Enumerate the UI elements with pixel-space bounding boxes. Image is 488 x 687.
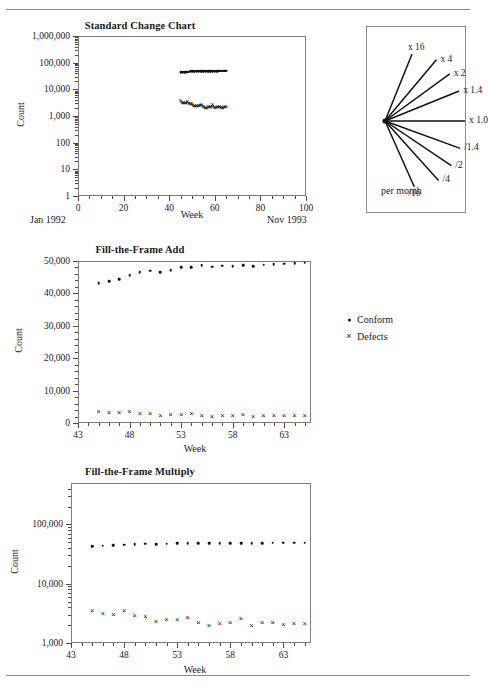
- data-point-defects: ×: [158, 412, 162, 420]
- fan-ray-label: /1.4: [464, 142, 479, 152]
- x-tick-minor: [156, 643, 157, 646]
- y-tick-minor: [75, 404, 78, 405]
- fan-hub: [382, 118, 387, 123]
- y-tick-minor: [68, 607, 71, 608]
- data-point-defects: ×: [207, 622, 211, 630]
- y-tick-minor: [75, 117, 78, 118]
- data-point-conform: [133, 543, 136, 546]
- x-tick-minor: [145, 643, 146, 646]
- x-tick-label: 53: [176, 430, 186, 440]
- y-tick-label: 20,000: [18, 353, 70, 363]
- x-tick-major: [124, 196, 125, 201]
- data-point-conform: [293, 541, 296, 544]
- x-tick-major: [71, 643, 72, 648]
- y-tick-minor: [75, 122, 78, 123]
- data-point-conform: [149, 269, 152, 272]
- x-tick-minor: [203, 196, 204, 199]
- data-point-conform: [123, 543, 126, 546]
- x-axis-label: Week: [135, 664, 255, 675]
- x-tick-minor: [109, 423, 110, 426]
- data-point-defects: ×: [90, 607, 94, 615]
- y-tick-major: [73, 391, 78, 392]
- data-point-conform: [282, 541, 285, 544]
- y-tick-minor: [75, 69, 78, 70]
- series-legend: Conform × Defects: [344, 310, 434, 344]
- y-tick-minor: [75, 371, 78, 372]
- y-tick-label: 10,000: [18, 386, 70, 396]
- y-tick-minor: [75, 130, 78, 131]
- y-tick-minor: [68, 555, 71, 556]
- y-tick-minor: [75, 50, 78, 51]
- data-point-conform: [197, 542, 200, 545]
- data-point-conform: [102, 544, 105, 547]
- y-tick-minor: [75, 161, 78, 162]
- x-tick-label: 40: [164, 203, 174, 213]
- y-tick-minor: [75, 73, 78, 74]
- data-point-conform: [221, 265, 224, 268]
- x-tick-label: 60: [210, 203, 220, 213]
- y-tick-minor: [75, 345, 78, 346]
- y-tick-minor: [75, 42, 78, 43]
- y-tick-minor: [75, 153, 78, 154]
- y-tick-minor: [75, 180, 78, 181]
- data-point-defects: ×: [217, 620, 221, 628]
- y-tick-minor: [75, 64, 78, 65]
- x-tick-label: 43: [66, 650, 76, 660]
- data-point-defects: ×: [127, 408, 131, 416]
- data-point-conform: [169, 269, 172, 272]
- data-point-defects: ×: [175, 616, 179, 624]
- y-tick-minor: [75, 97, 78, 98]
- y-tick-minor: [75, 65, 78, 66]
- y-tick-minor: [75, 332, 78, 333]
- x-tick-minor: [135, 196, 136, 199]
- x-tick-minor: [113, 643, 114, 646]
- y-tick-label: 50,000: [18, 256, 70, 266]
- page-top-rule: [6, 9, 470, 10]
- data-point-defects: ×: [101, 611, 105, 619]
- x-tick-minor: [99, 423, 100, 426]
- data-point-defects: ×: [122, 608, 126, 616]
- y-tick-minor: [68, 534, 71, 535]
- data-point-conform: [128, 274, 131, 277]
- y-tick-minor: [75, 144, 78, 145]
- x-tick-minor: [160, 423, 161, 426]
- y-tick-minor: [68, 548, 71, 549]
- data-point-defects: ×: [200, 412, 204, 420]
- y-tick-minor: [75, 91, 78, 92]
- y-tick-minor: [75, 280, 78, 281]
- x-tick-minor: [305, 643, 306, 646]
- y-tick-minor: [75, 313, 78, 314]
- y-tick-minor: [75, 274, 78, 275]
- y-tick-minor: [75, 47, 78, 48]
- x-tick-major: [260, 196, 261, 201]
- data-point-conform: [155, 543, 158, 546]
- data-point-defects: ×: [292, 412, 296, 420]
- y-tick-major: [73, 326, 78, 327]
- y-tick-minor: [75, 37, 78, 38]
- x-tick-major: [181, 423, 182, 428]
- data-point-defects: ×: [107, 409, 111, 417]
- y-tick-minor: [75, 378, 78, 379]
- y-tick-minor: [75, 39, 78, 40]
- data-point-defects: ×: [96, 408, 100, 416]
- x-tick-minor: [158, 196, 159, 199]
- x-tick-minor: [202, 423, 203, 426]
- y-tick-minor: [75, 157, 78, 158]
- y-tick-label: 100: [18, 138, 70, 148]
- y-tick-minor: [75, 108, 78, 109]
- y-tick-minor: [75, 40, 78, 41]
- y-tick-minor: [75, 188, 78, 189]
- y-tick-minor: [75, 183, 78, 184]
- x-tick-label: 63: [279, 650, 289, 660]
- y-tick-minor: [75, 177, 78, 178]
- y-tick-minor: [75, 306, 78, 307]
- x-tick-minor: [135, 643, 136, 646]
- y-tick-minor: [75, 384, 78, 385]
- x-tick-label: 100: [299, 203, 313, 213]
- data-point-defects: ×: [179, 411, 183, 419]
- fan-ray-label: x 1.4: [463, 85, 482, 95]
- data-point-defects: ×: [224, 105, 227, 110]
- data-point-defects: ×: [133, 613, 137, 621]
- x-tick-label: 0: [76, 203, 81, 213]
